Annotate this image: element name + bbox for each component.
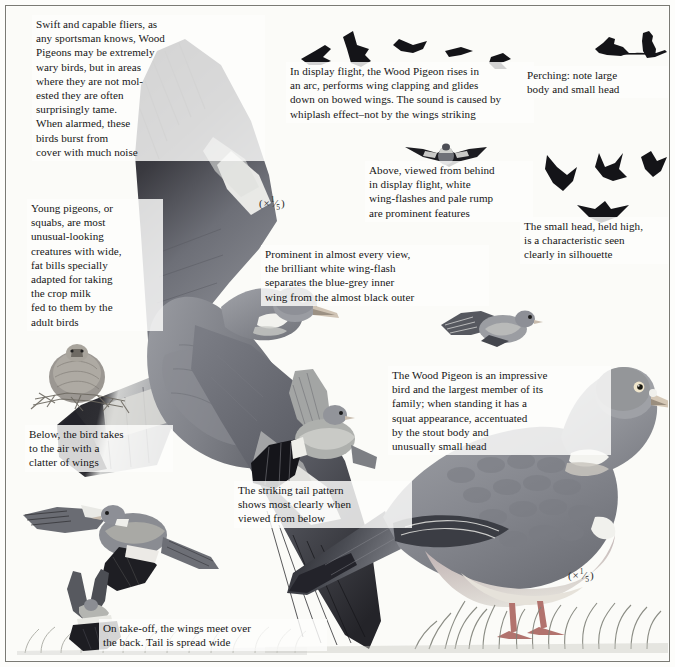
scale-mark-standing-bird: ( × 1⁄5 )	[568, 567, 594, 584]
caption-small-head-silhouette: The small head, held high, is a characte…	[524, 219, 668, 262]
scale-mark-flying-bird: ( × 1⁄5 )	[259, 195, 285, 212]
squab-in-nest-illustration	[25, 337, 133, 421]
caption-on-take-off: On take-off, the wings meet over the bac…	[103, 621, 323, 649]
flight-silhouettes-group	[543, 147, 668, 227]
caption-impressive-bird: The Wood Pigeon is an impressive bird an…	[392, 368, 607, 453]
perching-silhouettes	[593, 29, 668, 69]
caption-above-viewed-from-behind: Above, viewed from behind in display fli…	[369, 163, 529, 220]
caption-perching: Perching: note large body and small head	[527, 68, 667, 96]
grass-foreground	[415, 601, 661, 649]
caption-young-pigeons: Young pigeons, or squabs, are most unusu…	[31, 201, 159, 329]
caption-tail-pattern: The striking tail pattern shows most cle…	[238, 483, 408, 526]
caption-takes-to-the-air: Below, the bird takes to the air with a …	[29, 427, 169, 470]
illustrated-plate-page: Swift and capable fliers, as any sportsm…	[0, 0, 675, 667]
caption-white-wing-flash: Prominent in almost every view, the bril…	[265, 247, 485, 304]
caption-top-left: Swift and capable fliers, as any sportsm…	[36, 17, 261, 159]
plate-canvas: Swift and capable fliers, as any sportsm…	[7, 7, 668, 660]
caption-display-flight: In display flight, the Wood Pigeon rises…	[290, 64, 530, 121]
